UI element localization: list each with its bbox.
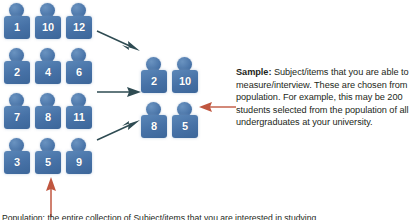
- person-icon: 8: [141, 102, 167, 138]
- person-label: 8: [45, 112, 51, 123]
- flow-arrow-up-right-icon: [96, 117, 142, 141]
- person-label: 6: [76, 67, 82, 78]
- person-label: 8: [151, 121, 157, 132]
- person-body-icon: 8: [141, 115, 167, 138]
- person-icon: 9: [66, 138, 92, 174]
- person-icon: 5: [35, 138, 61, 174]
- person-icon: 12: [66, 3, 92, 39]
- person-icon: 8: [35, 93, 61, 129]
- person-body-icon: 10: [35, 16, 61, 39]
- population-callout-arrow-up-icon: [44, 176, 58, 218]
- person-body-icon: 11: [66, 106, 92, 129]
- person-label: 1: [14, 22, 20, 33]
- population-caption: Population: the entire collection of Sub…: [2, 213, 319, 220]
- person-body-icon: 9: [66, 151, 92, 174]
- sample-callout-text: Sample: Subject/items that you are able …: [236, 66, 414, 129]
- person-icon: 5: [172, 102, 198, 138]
- sample-callout-term: Sample:: [236, 67, 271, 77]
- person-body-icon: 12: [66, 16, 92, 39]
- person-label: 7: [14, 112, 20, 123]
- person-body-icon: 6: [66, 61, 92, 84]
- person-body-icon: 5: [172, 115, 198, 138]
- person-body-icon: 2: [141, 70, 167, 93]
- person-label: 11: [73, 112, 85, 123]
- person-label: 2: [14, 67, 20, 78]
- sample-callout-arrow-left-icon: [198, 100, 237, 114]
- person-icon: 10: [35, 3, 61, 39]
- person-icon: 3: [4, 138, 30, 174]
- person-label: 5: [45, 157, 51, 168]
- person-label: 12: [73, 22, 85, 33]
- flow-arrow-right-icon: [96, 85, 142, 99]
- person-body-icon: 8: [35, 106, 61, 129]
- person-body-icon: 1: [4, 16, 30, 39]
- figure-canvas: 1 10 12 2 4: [0, 0, 419, 220]
- person-icon: 7: [4, 93, 30, 129]
- person-icon: 4: [35, 48, 61, 84]
- person-body-icon: 7: [4, 106, 30, 129]
- person-label: 5: [182, 121, 188, 132]
- person-icon: 11: [66, 93, 92, 129]
- person-body-icon: 10: [172, 70, 198, 93]
- person-body-icon: 3: [4, 151, 30, 174]
- person-icon: 1: [4, 3, 30, 39]
- person-label: 4: [45, 67, 51, 78]
- person-body-icon: 4: [35, 61, 61, 84]
- person-body-icon: 2: [4, 61, 30, 84]
- person-label: 10: [42, 22, 54, 33]
- person-body-icon: 5: [35, 151, 61, 174]
- person-label: 3: [14, 157, 20, 168]
- person-label: 2: [151, 76, 157, 87]
- flow-arrow-down-right-icon: [96, 30, 142, 54]
- person-icon: 2: [141, 57, 167, 93]
- person-icon: 2: [4, 48, 30, 84]
- person-icon: 10: [172, 57, 198, 93]
- person-label: 10: [179, 76, 191, 87]
- person-icon: 6: [66, 48, 92, 84]
- person-label: 9: [76, 157, 82, 168]
